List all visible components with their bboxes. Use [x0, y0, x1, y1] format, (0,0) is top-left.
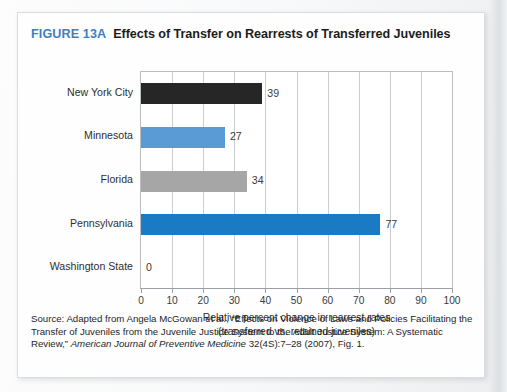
- figure-card: FIGURE 13AEffects of Transfer on Rearres…: [17, 12, 485, 378]
- category-label: Florida: [101, 173, 133, 185]
- x-tick-label: 80: [375, 295, 405, 306]
- source-line-1: Source: Adapted from Angela McGowan et a…: [31, 313, 456, 324]
- tick-mark: [421, 289, 422, 293]
- x-tick-label: 30: [219, 295, 249, 306]
- x-tick-label: 50: [282, 295, 312, 306]
- tick-mark: [452, 289, 453, 293]
- x-tick-label: 0: [126, 295, 156, 306]
- page-edge-shadow: [489, 0, 507, 392]
- source-line-3-prefix: Review,”: [31, 338, 71, 349]
- x-tick-label: 10: [157, 295, 187, 306]
- category-label: Washington State: [50, 260, 133, 272]
- bar-value-label: 77: [385, 218, 397, 230]
- source-citation: Source: Adapted from Angela McGowan et a…: [31, 313, 476, 351]
- gridline: [265, 72, 266, 288]
- bar-value-label: 0: [146, 261, 152, 273]
- category-axis-labels: New York CityMinnesotaFloridaPennsylvani…: [18, 71, 133, 289]
- bar-value-label: 39: [267, 87, 279, 99]
- gridline: [297, 72, 298, 288]
- x-tick-label: 70: [344, 295, 374, 306]
- tick-mark: [265, 289, 266, 293]
- x-tick-label: 60: [313, 295, 343, 306]
- tick-mark: [141, 289, 142, 293]
- bar-value-label: 27: [230, 130, 242, 142]
- figure-number: FIGURE 13A: [31, 27, 106, 41]
- tick-mark: [203, 289, 204, 293]
- category-label: New York City: [67, 86, 133, 98]
- gridline: [359, 72, 360, 288]
- source-journal-name: American Journal of Preventive Medicine: [71, 338, 246, 349]
- source-line-3-suffix: 32(4S):7–28 (2007), Fig. 1.: [246, 338, 364, 349]
- tick-mark: [359, 289, 360, 293]
- bar: [141, 214, 380, 235]
- category-label: Minnesota: [84, 129, 133, 141]
- bar: [141, 127, 225, 148]
- tick-mark: [297, 289, 298, 293]
- x-tick-label: 40: [250, 295, 280, 306]
- gridline: [421, 72, 422, 288]
- tick-mark: [328, 289, 329, 293]
- x-tick-label: 90: [406, 295, 436, 306]
- bar-chart: New York CityMinnesotaFloridaPennsylvani…: [18, 57, 486, 307]
- gridline: [328, 72, 329, 288]
- x-tick-label: 20: [188, 295, 218, 306]
- gridline: [390, 72, 391, 288]
- page-title: Effects of Transfer on Rearrests of Tran…: [113, 27, 450, 41]
- tick-mark: [390, 289, 391, 293]
- category-label: Pennsylvania: [70, 217, 133, 229]
- tick-mark: [172, 289, 173, 293]
- bar-value-label: 34: [252, 174, 264, 186]
- figure-title-row: FIGURE 13AEffects of Transfer on Rearres…: [31, 24, 479, 42]
- bar: [141, 83, 262, 104]
- plot-area: 392734770: [140, 71, 453, 289]
- tick-mark: [234, 289, 235, 293]
- bar: [141, 171, 247, 192]
- x-tick-label: 100: [437, 295, 467, 306]
- page-background: FIGURE 13AEffects of Transfer on Rearres…: [0, 0, 507, 392]
